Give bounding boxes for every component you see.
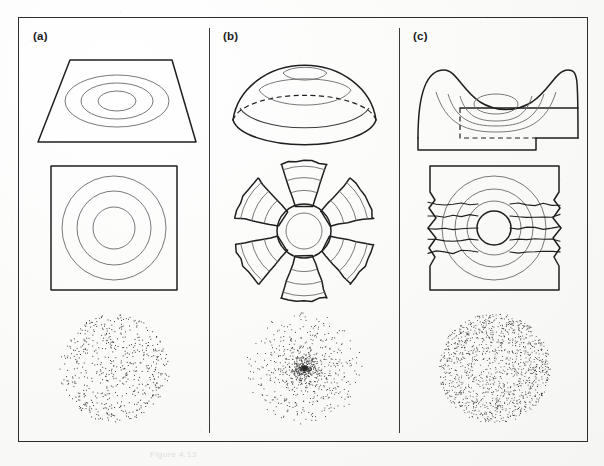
panel-b-dots-cell: [209, 306, 399, 436]
saddle-surface: [404, 46, 584, 158]
dome-surface: [217, 46, 392, 158]
panel-c-surface-cell: [399, 46, 589, 164]
edge-concentrated-dot-disc: [414, 306, 574, 431]
panel-b-surface-cell: [209, 46, 399, 164]
figure-caption: Figure 4.13: [150, 450, 480, 459]
panel-c-label: (c): [413, 30, 428, 42]
uniform-dot-disc: [34, 306, 194, 431]
panel-c: (c): [399, 18, 589, 441]
panel-b-map-cell: [209, 158, 399, 308]
panel-c-map-cell: [399, 158, 589, 308]
undistorted-square-map: [39, 158, 189, 298]
figure-frame: (a): [18, 17, 588, 442]
panel-c-dots-cell: [399, 306, 589, 436]
panel-a-dots-cell: [19, 306, 209, 436]
slit-stretched-map: [412, 158, 577, 304]
flat-plane-surface: [24, 46, 204, 158]
panel-b-label: (b): [223, 30, 238, 42]
panel-a-map-cell: [19, 158, 209, 308]
panel-a-label: (a): [33, 30, 48, 42]
petal-interrupted-map: [224, 158, 384, 304]
panel-a: (a): [19, 18, 209, 441]
panel-a-surface-cell: [19, 46, 209, 164]
center-peaked-dot-disc: [224, 306, 384, 431]
panel-b: (b): [209, 18, 399, 441]
